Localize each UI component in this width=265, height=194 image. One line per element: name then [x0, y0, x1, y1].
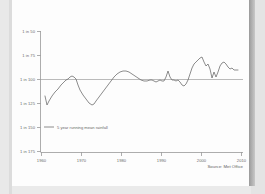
x-tick-label-1990: 1990	[157, 158, 167, 163]
x-axis-ticks	[42, 153, 242, 157]
legend-label-5yr-running-mean: 5 year running mean rainfall	[57, 125, 108, 130]
y-tick-label-50: 1 in 50	[22, 29, 35, 34]
chart-legend: 5 year running mean rainfall	[44, 125, 108, 130]
y-axis-ticks	[37, 32, 41, 152]
source-note: Source: Met Office	[207, 164, 243, 169]
x-axis-tick-labels: 1960 1970 1980 1990 2000 2010	[37, 158, 247, 163]
chart-svg: 1 in 50 1 in 75 1 in 100 1 in 125 1 in 1…	[0, 0, 265, 194]
x-tick-label-2010: 2010	[237, 158, 247, 163]
x-tick-label-1980: 1980	[117, 158, 127, 163]
y-tick-label-75: 1 in 75	[22, 53, 35, 58]
y-tick-label-175: 1 in 175	[20, 149, 36, 154]
page-canvas: 1 in 50 1 in 75 1 in 100 1 in 125 1 in 1…	[0, 0, 265, 194]
rainfall-line-chart: 1 in 50 1 in 75 1 in 100 1 in 125 1 in 1…	[0, 0, 265, 194]
x-tick-label-1960: 1960	[37, 158, 47, 163]
x-tick-label-1970: 1970	[77, 158, 87, 163]
x-tick-label-2000: 2000	[197, 158, 207, 163]
y-tick-label-100: 1 in 100	[20, 77, 36, 82]
y-tick-label-125: 1 in 125	[20, 101, 36, 106]
y-tick-label-150: 1 in 150	[20, 125, 36, 130]
series-line-5yr-running-mean	[45, 57, 238, 105]
y-axis-tick-labels: 1 in 50 1 in 75 1 in 100 1 in 125 1 in 1…	[20, 29, 36, 154]
